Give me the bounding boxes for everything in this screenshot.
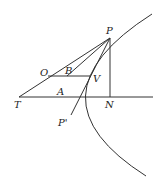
line-PB <box>67 38 110 76</box>
label-B: B <box>64 65 72 76</box>
label-V: V <box>93 73 102 84</box>
label-P: P <box>105 25 113 36</box>
label-A: A <box>56 86 64 97</box>
label-T: T <box>14 99 22 110</box>
label-N: N <box>104 99 115 110</box>
parabola-diagram: P O B V T A N P' <box>0 0 162 185</box>
parabola-curve <box>85 14 152 176</box>
label-P-prime: P' <box>57 117 67 128</box>
label-O: O <box>40 67 48 78</box>
